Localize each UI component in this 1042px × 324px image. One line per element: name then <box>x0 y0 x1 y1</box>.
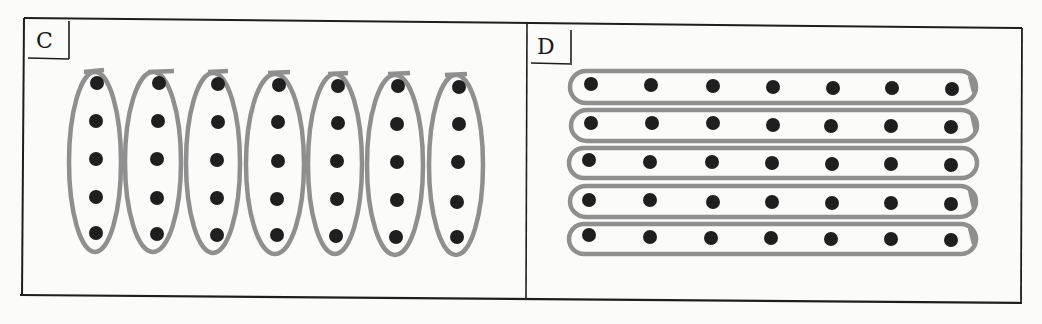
panel-c-dots <box>89 76 466 244</box>
panel-c: C <box>28 21 483 255</box>
dot-array-diagram: C <box>0 0 1042 324</box>
panel-c-label: C <box>36 28 53 53</box>
panel-d: D <box>531 30 977 254</box>
diagram-frame <box>20 18 1022 303</box>
panel-d-label: D <box>537 34 555 59</box>
